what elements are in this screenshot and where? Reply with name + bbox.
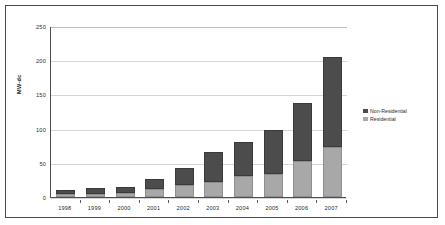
bar-2007[interactable] bbox=[323, 57, 342, 197]
legend-label: Residential bbox=[370, 115, 396, 123]
bar-segment-non-residential-2002[interactable] bbox=[175, 168, 194, 184]
x-tick-mark-6 bbox=[257, 200, 258, 203]
x-tick-label-2007: 2007 bbox=[316, 205, 346, 211]
bar-segment-residential-1999[interactable] bbox=[86, 194, 105, 197]
bar-segment-residential-2002[interactable] bbox=[175, 185, 194, 197]
x-tick-mark-3 bbox=[168, 200, 169, 203]
x-tick-mark-7 bbox=[287, 200, 288, 203]
bar-2005[interactable] bbox=[264, 130, 283, 197]
bar-segment-non-residential-2006[interactable] bbox=[293, 103, 312, 162]
bar-segment-non-residential-2007[interactable] bbox=[323, 57, 342, 147]
y-tick-label-200: 200 bbox=[22, 58, 46, 64]
x-tick-mark-1 bbox=[109, 200, 110, 203]
bar-segment-residential-2006[interactable] bbox=[293, 161, 312, 197]
y-tick-label-100: 100 bbox=[22, 127, 46, 133]
bar-1999[interactable] bbox=[86, 188, 105, 197]
chart-legend: Non-ResidentialResidential bbox=[363, 107, 435, 123]
y-tick-label-250: 250 bbox=[22, 24, 46, 30]
chart-canvas: MW-dc 050100150200250 199819992000200120… bbox=[0, 0, 445, 225]
chart-frame: MW-dc 050100150200250 199819992000200120… bbox=[5, 5, 438, 218]
bar-segment-non-residential-2001[interactable] bbox=[145, 179, 164, 189]
bar-segment-residential-2001[interactable] bbox=[145, 189, 164, 197]
legend-swatch-icon bbox=[363, 109, 368, 114]
gridline-0 bbox=[51, 198, 347, 199]
x-tick-mark-2 bbox=[139, 200, 140, 203]
bar-segment-residential-2004[interactable] bbox=[234, 176, 253, 197]
x-tick-mark-8 bbox=[316, 200, 317, 203]
x-tick-mark-0 bbox=[80, 200, 81, 203]
bar-segment-non-residential-2005[interactable] bbox=[264, 130, 283, 174]
y-tick-label-0: 0 bbox=[22, 195, 46, 201]
x-tick-label-2004: 2004 bbox=[227, 205, 257, 211]
gridline-250 bbox=[51, 27, 347, 28]
legend-label: Non-Residential bbox=[370, 107, 407, 115]
bar-segment-residential-2007[interactable] bbox=[323, 147, 342, 197]
x-tick-label-2002: 2002 bbox=[168, 205, 198, 211]
x-tick-label-2003: 2003 bbox=[198, 205, 228, 211]
bar-segment-residential-2003[interactable] bbox=[204, 182, 223, 197]
bar-segment-residential-1998[interactable] bbox=[56, 194, 75, 197]
legend-item-residential[interactable]: Residential bbox=[363, 115, 435, 123]
x-tick-label-2001: 2001 bbox=[139, 205, 169, 211]
bar-1998[interactable] bbox=[56, 190, 75, 197]
bar-2002[interactable] bbox=[175, 168, 194, 197]
x-tick-label-2000: 2000 bbox=[109, 205, 139, 211]
x-tick-mark-4 bbox=[198, 200, 199, 203]
bar-segment-non-residential-2004[interactable] bbox=[234, 142, 253, 176]
gridline-200 bbox=[51, 61, 347, 62]
plot-area bbox=[50, 27, 346, 198]
bar-2000[interactable] bbox=[116, 187, 135, 197]
y-tick-label-150: 150 bbox=[22, 92, 46, 98]
x-tick-label-2006: 2006 bbox=[287, 205, 317, 211]
legend-swatch-icon bbox=[363, 117, 368, 122]
x-axis-ticks: 1998199920002001200220032004200520062007 bbox=[50, 200, 346, 214]
y-axis-ticks: 050100150200250 bbox=[20, 6, 46, 198]
bar-segment-residential-2000[interactable] bbox=[116, 193, 135, 197]
bar-2004[interactable] bbox=[234, 142, 253, 197]
x-tick-label-1998: 1998 bbox=[50, 205, 80, 211]
x-tick-label-1999: 1999 bbox=[79, 205, 109, 211]
gridline-150 bbox=[51, 95, 347, 96]
bar-segment-non-residential-2003[interactable] bbox=[204, 152, 223, 182]
y-tick-label-50: 50 bbox=[22, 161, 46, 167]
legend-item-non-residential[interactable]: Non-Residential bbox=[363, 107, 435, 115]
x-tick-label-2005: 2005 bbox=[257, 205, 287, 211]
x-tick-mark-9 bbox=[346, 200, 347, 203]
x-tick-mark-5 bbox=[228, 200, 229, 203]
bar-segment-residential-2005[interactable] bbox=[264, 174, 283, 197]
bar-2006[interactable] bbox=[293, 103, 312, 197]
bar-2003[interactable] bbox=[204, 152, 223, 197]
bar-2001[interactable] bbox=[145, 179, 164, 197]
